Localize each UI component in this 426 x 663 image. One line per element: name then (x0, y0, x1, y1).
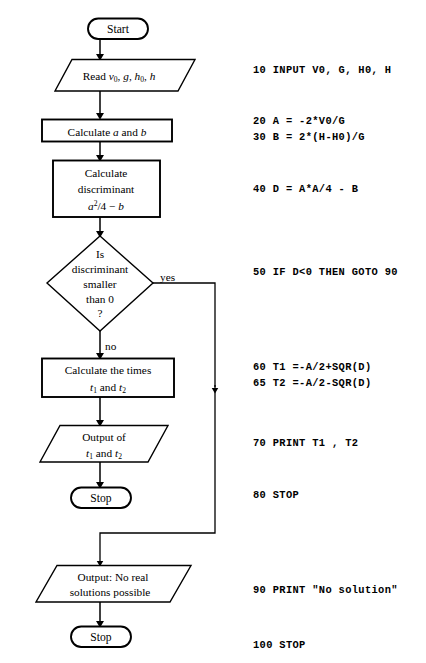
node-decision-line5: ? (97, 307, 102, 319)
node-decision-line3: smaller (83, 278, 116, 290)
node-calculate-discriminant-line2: discriminant (78, 183, 135, 195)
node-decision-line1: Is (96, 248, 104, 260)
code-line-90: 90 PRINT "No solution" (253, 584, 398, 596)
node-calculate-discriminant-line3: a2/4 − b (88, 199, 124, 212)
node-output-no-solution-line2: solutions possible (70, 586, 151, 598)
code-line-70: 70 PRINT T1 , T2 (253, 437, 358, 449)
code-line-40: 40 D = A*A/4 - B (253, 183, 358, 195)
node-calculate-times-line1: Calculate the times (65, 364, 152, 376)
code-line-65: 65 T2 =-A/2-SQR(D) (253, 377, 372, 389)
node-calculate-discriminant[interactable]: Calculate discriminant a2/4 − b (53, 161, 160, 218)
code-line-80: 80 STOP (253, 489, 299, 501)
node-read-prefix: Read (83, 70, 109, 82)
code-line-10: 10 INPUT V0, G, H0, H (253, 64, 391, 76)
code-line-30: 30 B = 2*(H-H0)/G (253, 131, 365, 143)
code-line-50: 50 IF D<0 THEN GOTO 90 (253, 266, 398, 278)
flowchart-canvas: Start Read v0, g, h0, h Calculate a and … (0, 0, 426, 663)
node-start-label: Start (107, 23, 130, 36)
node-calculate-times[interactable]: Calculate the times t1 and t2 (42, 359, 174, 398)
node-read[interactable]: Read v0, g, h0, h (55, 60, 195, 92)
flowchart-svg: Start Read v0, g, h0, h Calculate a and … (0, 0, 426, 663)
code-line-60: 60 T1 =-A/2+SQR(D) (253, 361, 372, 373)
code-line-20: 20 A = -2*V0/G (253, 115, 345, 127)
node-calculate-a-and-b[interactable]: Calculate a and b (42, 120, 172, 142)
code-line-100: 100 STOP (253, 639, 306, 651)
node-output-no-solution[interactable]: Output: No real solutions possible (36, 566, 191, 603)
node-decision-discriminant[interactable]: Is discriminant smaller than 0 ? (47, 236, 153, 331)
node-calculate-a-and-b-label: Calculate a and b (68, 126, 147, 138)
branch-label-no: no (105, 340, 117, 352)
connector-decision-yes-to-outputnosol (100, 390, 215, 565)
node-stop-2-label: Stop (90, 631, 111, 644)
node-calculate-discriminant-line1: Calculate (85, 167, 128, 179)
node-output-times-line1: Output of (82, 431, 126, 443)
node-decision-line4: than 0 (86, 293, 114, 305)
node-stop-1-label: Stop (90, 492, 111, 505)
node-output-no-solution-line1: Output: No real (78, 571, 149, 583)
branch-label-yes: yes (160, 271, 175, 283)
node-stop-1[interactable]: Stop (71, 488, 131, 509)
node-decision-line2: discriminant (72, 263, 129, 275)
node-output-times[interactable]: Output of t1 and t2 (40, 426, 168, 463)
node-start[interactable]: Start (88, 19, 148, 40)
node-stop-2[interactable]: Stop (71, 627, 131, 648)
